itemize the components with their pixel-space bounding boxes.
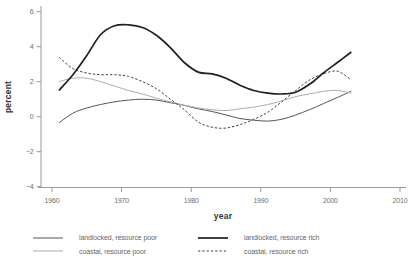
axes: −4−20246196019701980199020002010 bbox=[26, 6, 408, 204]
y-axis-title: percent bbox=[3, 81, 13, 113]
y-tick-label: 6 bbox=[30, 8, 34, 15]
series-line-landlocked-resource-rich bbox=[59, 25, 351, 94]
y-tick-label: 2 bbox=[30, 78, 34, 85]
x-axis-title: year bbox=[214, 211, 233, 221]
figure: −4−20246196019701980199020002010 percent… bbox=[0, 0, 415, 262]
legend-item-landlocked-resource-poor: landlocked, resource poor bbox=[33, 231, 198, 245]
legend-line-sample-landlocked-resource-rich bbox=[198, 234, 228, 242]
y-tick-label: 0 bbox=[30, 113, 34, 120]
y-tick-label: −4 bbox=[26, 183, 34, 190]
legend-line-sample-landlocked-resource-poor bbox=[33, 234, 63, 242]
legend: landlocked, resource poorcoastal, resour… bbox=[33, 231, 383, 258]
legend-label-coastal-resource-poor: coastal, resource poor bbox=[79, 248, 146, 255]
legend-item-landlocked-resource-rich: landlocked, resource rich bbox=[198, 231, 383, 245]
series-line-landlocked-resource-poor bbox=[59, 91, 351, 123]
series-line-coastal-resource-poor bbox=[59, 78, 351, 111]
x-tick-label: 1970 bbox=[114, 197, 129, 204]
line-chart: −4−20246196019701980199020002010 percent… bbox=[0, 0, 415, 262]
legend-line-sample-coastal-resource-rich bbox=[198, 247, 228, 255]
y-tick-label: −2 bbox=[26, 148, 34, 155]
legend-label-landlocked-resource-rich: landlocked, resource rich bbox=[244, 234, 319, 241]
x-tick-label: 1980 bbox=[184, 197, 199, 204]
y-tick-label: 4 bbox=[30, 43, 34, 50]
legend-item-coastal-resource-poor: coastal, resource poor bbox=[33, 245, 198, 259]
legend-label-landlocked-resource-poor: landlocked, resource poor bbox=[79, 234, 157, 241]
x-tick-label: 1990 bbox=[253, 197, 268, 204]
legend-line-sample-coastal-resource-poor bbox=[33, 247, 63, 255]
legend-label-coastal-resource-rich: coastal, resource rich bbox=[244, 248, 308, 255]
x-tick-label: 2000 bbox=[323, 197, 338, 204]
x-tick-label: 1960 bbox=[45, 197, 60, 204]
series-lines bbox=[59, 25, 351, 129]
legend-item-coastal-resource-rich: coastal, resource rich bbox=[198, 245, 383, 259]
series-line-coastal-resource-rich bbox=[59, 57, 351, 128]
x-tick-label: 2010 bbox=[393, 197, 408, 204]
